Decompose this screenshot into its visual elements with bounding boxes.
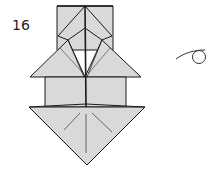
origami-model: [29, 6, 145, 165]
bottom-triangle: [29, 107, 145, 165]
turn-over-arrow-icon: [176, 50, 206, 64]
center-crease: [85, 6, 86, 107]
origami-diagram: [0, 0, 209, 175]
